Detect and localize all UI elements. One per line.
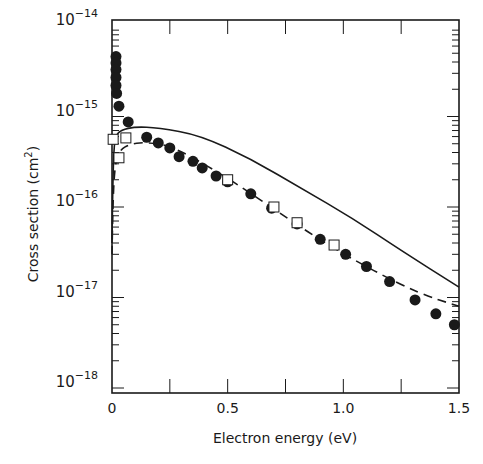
x-tick-label: 0.5 (217, 400, 239, 416)
y-tick-exponent: −16 (75, 188, 98, 201)
y-tick-label: 10−18 (56, 372, 98, 391)
filled-circle-point (197, 162, 208, 173)
filled-circle-point (449, 319, 460, 330)
solid-curve (112, 127, 459, 287)
y-tick-exponent: −18 (75, 369, 98, 382)
y-tick-exponent: −14 (75, 7, 98, 20)
y-tick-labels: 10−1410−1510−1610−1710−18 (0, 0, 98, 464)
y-tick-base: 10 (56, 192, 75, 210)
y-tick-label: 10−16 (56, 191, 98, 210)
x-tick-label: 1.5 (448, 400, 470, 416)
open-square-point (329, 240, 339, 250)
filled-circle-point (141, 132, 152, 143)
filled-circle-point (111, 88, 122, 99)
filled-circle-point (174, 151, 185, 162)
data-markers (108, 51, 460, 330)
open-square-point (114, 153, 124, 163)
y-axis-label-sup: 2 (23, 151, 34, 157)
open-square-point (292, 218, 302, 228)
curves (112, 127, 459, 306)
filled-circle-point (123, 116, 134, 127)
y-tick-exponent: −15 (75, 98, 98, 111)
filled-circle-point (384, 276, 395, 287)
filled-circle-point (187, 156, 198, 167)
y-axis-label-text: Cross section (cm (25, 158, 41, 283)
axis-ticks (112, 20, 459, 393)
plot-border (112, 20, 459, 393)
filled-circle-point (315, 234, 326, 245)
filled-circle-point (211, 171, 222, 182)
dashed-curve (112, 143, 459, 306)
open-square-point (269, 202, 279, 212)
axes-frame (112, 20, 459, 393)
y-tick-base: 10 (56, 102, 75, 120)
y-tick-label: 10−14 (56, 10, 98, 29)
filled-circle-point (340, 249, 351, 260)
y-tick-exponent: −17 (75, 279, 98, 292)
filled-circle-point (410, 294, 421, 305)
x-tick-label: 0 (108, 400, 117, 416)
filled-circle-point (361, 261, 372, 272)
y-axis-label-close: ) (25, 146, 41, 151)
y-tick-base: 10 (56, 373, 75, 391)
y-axis-label: Cross section (cm2) (23, 146, 41, 282)
y-tick-base: 10 (56, 11, 75, 29)
open-square-point (223, 175, 233, 185)
filled-circle-point (245, 188, 256, 199)
x-axis-label: Electron energy (eV) (213, 430, 357, 446)
filled-circle-point (430, 308, 441, 319)
open-square-point (121, 133, 131, 143)
x-tick-label: 1.0 (332, 400, 354, 416)
y-tick-base: 10 (56, 283, 75, 301)
filled-circle-point (153, 137, 164, 148)
open-square-point (108, 134, 118, 144)
y-tick-label: 10−15 (56, 101, 98, 120)
filled-circle-point (164, 142, 175, 153)
filled-circle-point (113, 101, 124, 112)
y-tick-label: 10−17 (56, 282, 98, 301)
